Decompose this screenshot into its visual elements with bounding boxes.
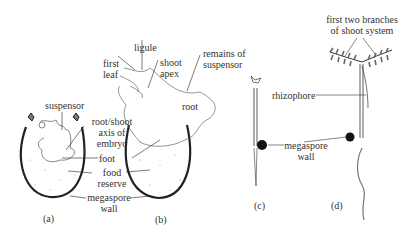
- panel-d-plant: [304, 38, 392, 220]
- label-root: root: [182, 101, 198, 112]
- label-suspensor: suspensor: [45, 100, 84, 111]
- caption-a: (a): [43, 213, 54, 224]
- label-foot: foot: [99, 153, 115, 164]
- label-megaspore-wall-cd: megaspore wall: [283, 140, 329, 162]
- panel-a-megaspore: [21, 112, 98, 198]
- label-first-two-branches: first two branches of shoot system: [322, 14, 402, 36]
- caption-b: (b): [155, 214, 167, 225]
- label-rhizophore: rhizophore: [272, 90, 315, 101]
- label-shoot-apex: shoot apex: [160, 57, 182, 79]
- label-root-shoot-axis: root/shoot axis of embryo: [88, 116, 136, 149]
- label-ligule: ligule: [134, 42, 157, 53]
- label-megaspore-wall-a: megaspore wall: [86, 192, 132, 214]
- caption-c: (c): [254, 200, 265, 211]
- label-remains-of-suspensor: remains of suspensor: [203, 48, 246, 70]
- label-first-leaf: first leaf: [103, 58, 119, 80]
- caption-d: (d): [331, 200, 343, 211]
- label-food-reserve: food reserve: [94, 167, 130, 189]
